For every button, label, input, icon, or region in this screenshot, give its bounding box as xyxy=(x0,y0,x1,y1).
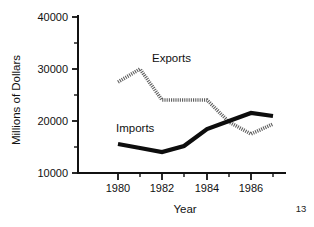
page-number: 13 xyxy=(296,203,307,214)
series-label-imports: Imports xyxy=(116,122,155,134)
y-tick-label-20000: 20000 xyxy=(37,115,68,127)
y-tick-label-10000: 10000 xyxy=(37,167,68,179)
x-tick-label-1986: 1986 xyxy=(239,182,263,194)
x-tick-label-1984: 1984 xyxy=(195,182,219,194)
x-tick-label-1982: 1982 xyxy=(150,182,174,194)
line-chart: 40000 30000 20000 10000 1980 1982 1984 1… xyxy=(0,0,314,227)
x-tick-label-1980: 1980 xyxy=(106,182,130,194)
y-tick-label-30000: 30000 xyxy=(37,63,68,75)
x-axis-title: Year xyxy=(173,203,196,215)
chart-figure: 40000 30000 20000 10000 1980 1982 1984 1… xyxy=(0,0,314,227)
series-label-exports: Exports xyxy=(152,52,191,64)
y-tick-label-40000: 40000 xyxy=(37,11,68,23)
y-axis-title: Millions of Dollars xyxy=(10,55,22,145)
